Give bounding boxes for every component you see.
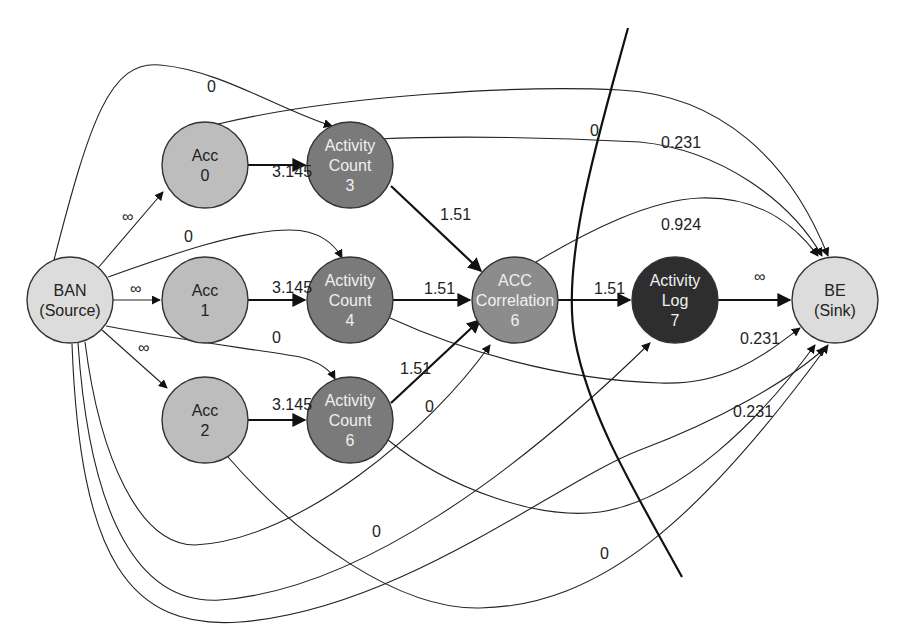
edge-label-acc0-be: 0 [590, 122, 599, 139]
edge-label-ban-ac4: 0 [184, 228, 193, 245]
edge-label-acc0-ac3: 3.145 [272, 163, 312, 180]
edge-label-ac3-be: 0.231 [661, 134, 701, 151]
edge-label-ac4-be: 0.231 [740, 330, 780, 347]
node-label: 2 [201, 422, 210, 439]
node-label: 6 [511, 312, 520, 329]
node-ac3: ActivityCount3 [307, 122, 393, 208]
edge-label-ban-acc0: ∞ [122, 208, 133, 225]
node-circle [162, 122, 248, 208]
edge-label-ac3-corr: 1.51 [440, 206, 471, 223]
node-label: 1 [201, 302, 210, 319]
node-label: Count [329, 412, 372, 429]
node-circle [792, 257, 878, 343]
node-label: Count [329, 157, 372, 174]
node-acc0: Acc0 [162, 122, 248, 208]
node-label: Correlation [476, 292, 554, 309]
node-circle [162, 257, 248, 343]
node-label: 0 [201, 167, 210, 184]
node-label: 4 [346, 312, 355, 329]
node-label: (Source) [39, 302, 100, 319]
edge-label-acc2-be: 0 [600, 545, 609, 562]
edge-label-ban-acc2: ∞ [138, 339, 149, 356]
edge-label-log-be: ∞ [754, 268, 765, 285]
edge-label-acc1-ac4: 3.145 [272, 279, 312, 296]
node-label: (Sink) [814, 302, 856, 319]
node-label: 7 [671, 312, 680, 329]
node-ac6: ActivityCount6 [307, 377, 393, 463]
node-circle [27, 257, 113, 343]
node-acc2: Acc2 [162, 377, 248, 463]
node-ac4: ActivityCount4 [307, 257, 393, 343]
node-label: Activity [325, 137, 376, 154]
edge-acc2-be [228, 345, 828, 608]
edge-ac4-be [390, 318, 800, 383]
node-label: Acc [192, 282, 219, 299]
node-label: BE [824, 282, 845, 299]
node-label: Activity [325, 272, 376, 289]
edge-label-ban-acc1: ∞ [130, 280, 141, 297]
edge-label-ac4-corr: 1.51 [424, 280, 455, 297]
node-label: Acc [192, 147, 219, 164]
node-label: BAN [54, 282, 87, 299]
node-label: Count [329, 292, 372, 309]
node-ban: BAN(Source) [27, 257, 113, 343]
node-label: 6 [346, 432, 355, 449]
node-log: ActivityLog7 [632, 257, 718, 343]
edge-label-ban-log: 0 [372, 523, 381, 540]
edge-ban-acc0 [98, 192, 163, 268]
node-circle [162, 377, 248, 463]
node-be: BE(Sink) [792, 257, 878, 343]
node-label: 3 [346, 177, 355, 194]
flow-network-diagram: BAN(Source)Acc0Acc1Acc2ActivityCount3Act… [0, 0, 901, 632]
node-label: Log [662, 292, 689, 309]
edge-ac3-be [378, 137, 822, 256]
edge-label-ban-corr: 0 [425, 398, 434, 415]
node-label: Acc [192, 402, 219, 419]
node-label: ACC [498, 272, 532, 289]
node-acc1: Acc1 [162, 257, 248, 343]
node-label: Activity [325, 392, 376, 409]
node-corr: ACCCorrelation6 [472, 257, 558, 343]
edge-label-ac6-corr: 1.51 [400, 360, 431, 377]
edge-label-ban-ac3: 0 [207, 78, 216, 95]
edge-label-corr-log: 1.51 [594, 280, 625, 297]
edge-label-acc2-ac6: 3.145 [272, 396, 312, 413]
edge-ac6-be [388, 345, 815, 513]
edge-label-corr-be: 0.924 [661, 216, 701, 233]
edge-label-ban-ac6: 0 [272, 329, 281, 346]
edge-ban-acc2 [102, 330, 167, 388]
node-label: Activity [650, 272, 701, 289]
edge-label-ac6-be: 0.231 [733, 403, 773, 420]
edge-ac3-corr [391, 186, 481, 271]
